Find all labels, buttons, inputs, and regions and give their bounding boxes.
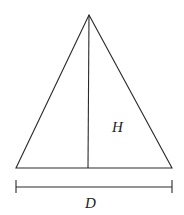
- height-label: H: [111, 119, 124, 135]
- triangle-diagram: H D: [0, 0, 184, 215]
- diameter-label: D: [84, 195, 96, 211]
- height-line: [88, 15, 89, 168]
- triangle-outline: [16, 15, 172, 168]
